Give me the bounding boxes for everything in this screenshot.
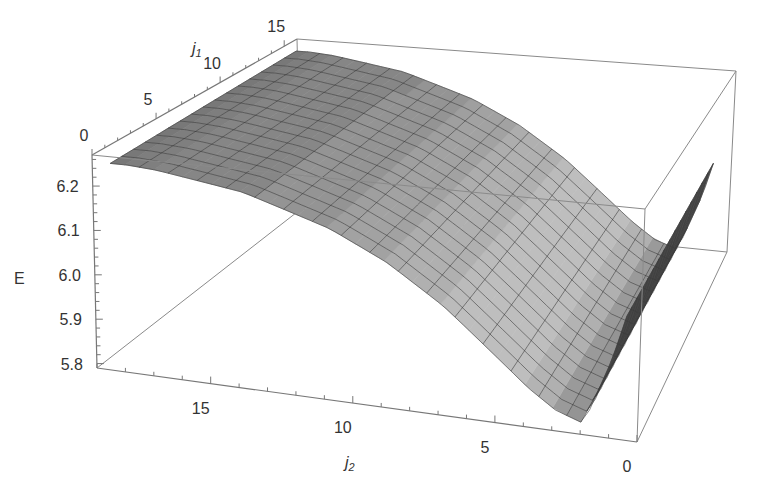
e-axis-line <box>92 155 97 368</box>
box-edge <box>645 71 736 209</box>
j2-axis-label: j2 <box>343 454 355 473</box>
j1-tick-label: 0 <box>80 127 89 144</box>
j1-tick-label: 15 <box>267 18 285 35</box>
j2-tick-label: 10 <box>334 419 352 436</box>
surface <box>110 51 713 422</box>
j2-tick-label: 15 <box>192 400 210 417</box>
e-tick-label: 6.2 <box>56 178 78 195</box>
e-tick-label: 6.1 <box>58 222 80 239</box>
j1-tick-label: 10 <box>203 55 221 72</box>
j2-tick-label: 5 <box>480 439 489 456</box>
e-tick-label: 5.8 <box>61 356 83 373</box>
box-edge <box>727 71 736 252</box>
e-tick-label: 5.9 <box>60 311 82 328</box>
e-tick-label: 6.0 <box>59 267 81 284</box>
j1-label-sub: 1 <box>196 47 202 59</box>
j2-label-sub: 2 <box>348 461 355 473</box>
e-axis-label: E <box>14 270 25 287</box>
surface-plot: 5.85.96.06.16.2051015051015 E j1 j2 <box>0 0 768 500</box>
j2-tick-label: 0 <box>623 458 632 475</box>
box-edge <box>97 209 301 368</box>
j1-tick-label: 5 <box>144 91 153 108</box>
j1-axis-label: j1 <box>190 40 202 59</box>
